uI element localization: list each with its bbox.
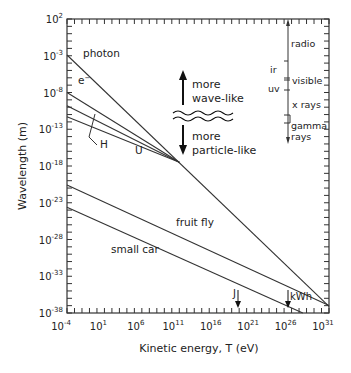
arrow-up-icon — [179, 70, 187, 80]
label-joule: J — [232, 288, 236, 299]
label-radio: radio — [291, 38, 315, 49]
energy-markers: J kWh — [232, 288, 312, 308]
y-tick-label: 10-18 — [39, 159, 63, 172]
series-line-H — [67, 106, 179, 163]
joule-arrow-icon — [235, 301, 241, 308]
y-tick-label: 10-38 — [39, 306, 63, 319]
label-electron: e− — [78, 74, 90, 86]
x-tick-label: 1016 — [200, 319, 222, 332]
label-xrays: x rays — [292, 99, 321, 110]
wavy-divider-icon — [173, 111, 233, 115]
label-kwh: kWh — [290, 291, 312, 302]
y-tick-label: 10-8 — [43, 86, 63, 99]
series-line-U — [67, 117, 179, 163]
y-tick-label: 10-13 — [39, 122, 63, 135]
label-wave-like: wave-like — [192, 92, 244, 105]
x-tick-label: 1021 — [237, 319, 259, 332]
wave-particle-annotation: more wave-like more particle-like — [173, 70, 257, 157]
x-axis-tick-labels: 10-410110610111016102110261031 — [51, 319, 334, 332]
x-tick-label: 101 — [90, 319, 107, 332]
label-gamma: gamma — [291, 120, 327, 131]
y-tick-label: 10-33 — [39, 269, 63, 282]
x-tick-label: 1031 — [312, 319, 334, 332]
x-axis-label: Kinetic energy, T (eV) — [139, 342, 258, 355]
arrow-down-icon — [179, 145, 187, 155]
label-gamma-rays: rays — [291, 131, 311, 142]
label-particle-like: particle-like — [192, 144, 257, 157]
y-tick-label: 10-23 — [39, 196, 63, 209]
label-photon: photon — [83, 47, 120, 59]
label-uv: uv — [268, 83, 280, 94]
x-tick-label: 1011 — [162, 319, 184, 332]
x-tick-label: 10-4 — [51, 319, 71, 332]
label-electron-sup: − — [84, 74, 90, 82]
label-uranium: U — [135, 144, 143, 156]
spectrum-arrow-down-icon — [286, 137, 290, 144]
label-hydrogen: H — [100, 138, 108, 150]
label-visible: visible — [292, 75, 323, 86]
label-more-wave: more — [192, 78, 221, 91]
y-axis-label: Wavelength (m) — [16, 122, 29, 210]
wavelength-energy-chart: 10-410110610111016102110261031 10210-310… — [0, 0, 351, 373]
series-line-fruit-fly — [67, 185, 329, 306]
y-axis-tick-labels: 10210-310-810-1310-1810-2310-2810-3310-3… — [39, 12, 63, 319]
y-tick-label: 10-3 — [43, 49, 63, 62]
x-tick-label: 1026 — [275, 319, 297, 332]
y-tick-label: 10-28 — [39, 233, 63, 246]
em-spectrum-scale: radio ir visible uv x rays gamma rays — [268, 19, 327, 144]
label-more-particle: more — [192, 130, 221, 143]
label-fruit-fly: fruit fly — [176, 216, 214, 228]
wavy-divider-icon-2 — [173, 117, 233, 121]
y-tick-label: 102 — [46, 12, 63, 25]
label-small-car: small car — [111, 243, 160, 255]
x-tick-label: 106 — [127, 319, 145, 332]
spectrum-arrow-up-icon — [286, 19, 290, 26]
label-ir: ir — [270, 64, 277, 75]
series-line-e- — [67, 93, 179, 163]
